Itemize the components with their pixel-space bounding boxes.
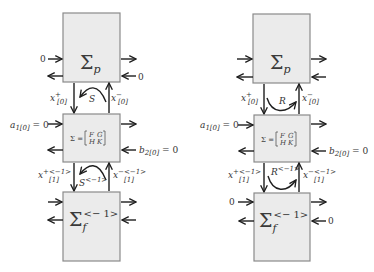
label-R-minus-1: R<−1>: [270, 165, 300, 177]
label-x-minus-0: x−[0]: [302, 91, 319, 106]
svg-text:K: K: [287, 139, 294, 147]
label-b2-0: b2[0] = 0: [139, 145, 178, 157]
svg-text:H: H: [279, 139, 287, 147]
label-a1-0: a1[0] = 0: [10, 120, 49, 132]
svg-text:K: K: [96, 138, 103, 146]
controller-box-sigma: Σ = F G H K: [254, 115, 310, 162]
label-R: R: [278, 96, 286, 106]
label-x-plus-0: x+[0]: [50, 91, 67, 106]
future-box-sigma-f: Σf<− 1>: [254, 193, 310, 261]
label-x-minus-0: x−[0]: [111, 91, 128, 106]
feedback-diagram-figure: Σp 0 0 x+[0] x−[0] S Σ = F G H K a1[0] =…: [0, 0, 374, 272]
curved-arrow-R-minus-1: [268, 176, 296, 189]
right-input-label: 0: [328, 216, 334, 226]
plant-box-sigma-p: Σp: [63, 13, 120, 82]
svg-text:Σ =: Σ =: [70, 135, 83, 143]
label-b2-0: b2[0] = 0: [329, 146, 368, 158]
plant-box-sigma-p: Σp: [253, 14, 310, 83]
left-diagram: Σp 0 0 x+[0] x−[0] S Σ = F G H K a1[0] =…: [10, 13, 178, 261]
right-input-label: 0: [138, 72, 144, 82]
label-a1-0: a1[0] = 0: [200, 120, 239, 132]
controller-box-sigma: Σ = F G H K: [63, 114, 120, 162]
label-x-minus-1: x−<−1>[1]: [303, 168, 336, 184]
right-diagram: Σp x+[0] x−[0] R Σ = F G H K a1[0] = 0 b…: [200, 14, 368, 261]
svg-text:Σ =: Σ =: [261, 136, 274, 144]
svg-text:H: H: [88, 138, 96, 146]
left-input-label: 0: [40, 54, 46, 64]
label-x-plus-1: x+<−1>[1]: [228, 168, 261, 184]
label-x-plus-1: x+<−1>[1]: [38, 168, 71, 184]
label-x-minus-1: x−<−1>[1]: [113, 168, 146, 184]
label-S: S: [89, 94, 95, 104]
left-input-label: 0: [229, 197, 235, 207]
label-x-plus-0: x+[0]: [241, 91, 258, 106]
future-box-sigma-f: Σf<− 1>: [63, 192, 120, 261]
label-S-minus-1: S<−1>: [79, 176, 107, 188]
